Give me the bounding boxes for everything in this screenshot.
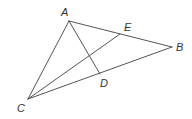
label-a: A — [60, 6, 68, 18]
segment-bc — [28, 47, 172, 99]
label-b: B — [176, 41, 183, 53]
label-d: D — [100, 77, 108, 89]
point-labels: A B C D E — [17, 6, 183, 114]
segment-ad — [69, 21, 100, 74]
segment-ce — [28, 34, 120, 99]
label-e: E — [124, 21, 132, 33]
triangle-diagram: A B C D E — [0, 0, 192, 119]
label-c: C — [17, 102, 25, 114]
segment-ca — [28, 21, 69, 99]
